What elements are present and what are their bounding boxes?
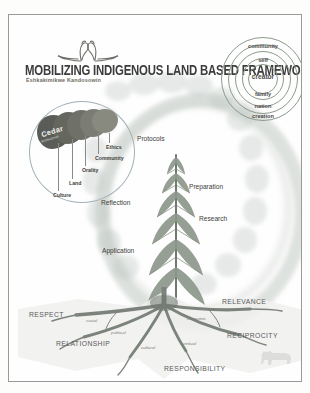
tree-label-application: Application (102, 247, 134, 254)
tree-label-preparation: Preparation (189, 183, 223, 190)
poster-frame: MOBILIZING INDIGENOUS LAND BASED FRAMEWO… (8, 14, 302, 382)
cedar-label-ethics: Ethics (106, 144, 122, 150)
root-dim-cultural: cultural (141, 345, 155, 350)
circle-label-nation: nation (221, 103, 302, 109)
root-dim-economic: economic (187, 316, 206, 321)
circle-label-creation: creation (221, 113, 302, 119)
root-label-responsibility: RESPONSIBILITY (164, 365, 226, 372)
circle-label-creator: creator (221, 73, 302, 80)
root-dim-social: social (86, 318, 97, 323)
root-dim-political: political (111, 330, 126, 335)
cedar-label-orality: Orality (82, 167, 98, 173)
root-label-respect: RESPECT (29, 311, 64, 318)
cedar-tree-illustration (121, 147, 231, 307)
circle-label-community: community (221, 43, 302, 49)
page-title: MOBILIZING INDIGENOUS LAND BASED FRAMEWO… (25, 61, 235, 77)
cedar-label-culture: Culture (53, 192, 71, 198)
relationship-circles-diagram: community self creator family nation cre… (221, 35, 302, 123)
tree-label-reflection: Reflection (101, 199, 130, 206)
circle-label-self: self (221, 57, 302, 63)
circle-label-family: family (221, 91, 302, 97)
cedar-label-land: Land (69, 180, 81, 186)
root-label-relationship: RELATIONSHIP (56, 340, 110, 347)
root-dim-spiritual: spiritual (181, 341, 196, 346)
root-label-relevance: RELEVANCE (222, 298, 266, 305)
cedar-label-community: Community (95, 155, 124, 161)
bison-silhouette-icon (258, 348, 294, 370)
root-label-reciprocity: RECIPROCITY (227, 332, 278, 339)
tree-label-protocols: Protocols (137, 135, 165, 142)
poster-canvas: MOBILIZING INDIGENOUS LAND BASED FRAMEWO… (0, 0, 310, 393)
page-subtitle: Eshkakimikwe Kandosowin (26, 77, 101, 83)
tree-label-research: Research (199, 215, 227, 222)
